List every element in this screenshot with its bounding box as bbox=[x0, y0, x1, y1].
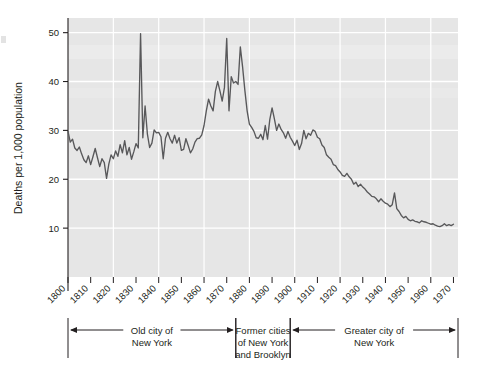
scan-edge-artifact bbox=[1, 36, 6, 43]
annotation-label: and Brooklyn bbox=[235, 349, 290, 360]
y-axis-title: Deaths per 1,000 population bbox=[12, 82, 24, 214]
panel-band-upper bbox=[68, 45, 458, 59]
y-tick-label: 30 bbox=[48, 125, 59, 136]
annotation-label: New York bbox=[354, 337, 394, 348]
panel-band-mid bbox=[68, 88, 458, 98]
annotation-label: Old city of bbox=[131, 325, 174, 336]
y-tick-label: 10 bbox=[48, 223, 59, 234]
annotation-label: New York bbox=[132, 337, 172, 348]
mortality-line-chart: 1020304050 18001810182018301840185018601… bbox=[0, 0, 478, 380]
annotation-label: Greater city of bbox=[344, 325, 404, 336]
y-tick-label: 20 bbox=[48, 174, 59, 185]
y-tick-label: 40 bbox=[48, 76, 59, 87]
annotation-label: Former cities bbox=[236, 325, 291, 336]
y-tick-label: 50 bbox=[48, 27, 59, 38]
annotation-label: of New York bbox=[238, 337, 289, 348]
